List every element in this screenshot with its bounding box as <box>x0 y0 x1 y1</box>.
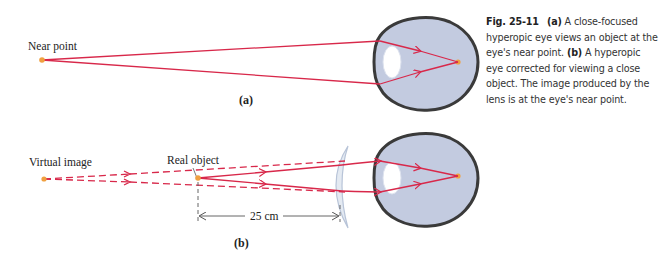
eye-b <box>374 134 478 227</box>
near-point-label: Near point <box>28 40 78 53</box>
figure-number: Fig. 25-11 <box>486 16 539 27</box>
figure-caption: Fig. 25-11(a) A close-focused hyperopic … <box>486 14 658 108</box>
eye-a <box>374 18 478 111</box>
panel-b-label: (b) <box>234 236 249 250</box>
real-object-label: Real object <box>167 154 220 167</box>
panel-a: Near point (a) <box>28 18 478 111</box>
virtual-image-dot <box>41 176 46 181</box>
distance-label: 25 cm <box>250 210 278 222</box>
caption-part-a: (a) <box>547 16 562 27</box>
virtual-image-label: Virtual image <box>29 156 92 169</box>
near-point-dot <box>39 57 45 63</box>
panel-b: Virtual image Real object <box>29 134 478 250</box>
real-object-dot <box>195 175 201 181</box>
caption-part-b: (b) <box>567 47 582 58</box>
panel-a-label: (a) <box>239 93 253 107</box>
